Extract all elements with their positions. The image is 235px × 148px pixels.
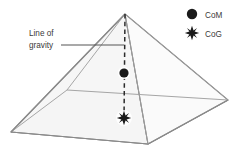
cog-marker <box>116 110 132 126</box>
pyramid-diagram: Line of gravity CoM CoG <box>0 0 235 148</box>
line-of-gravity-label-line2: gravity <box>29 41 54 50</box>
figure-root: Line of gravity CoM CoG <box>0 0 235 148</box>
legend-cog-label: CoG <box>205 30 222 39</box>
legend-item-cog: CoG <box>185 26 222 40</box>
legend-com-label: CoM <box>205 11 222 20</box>
line-of-gravity-label-line1: Line of <box>29 29 54 38</box>
legend: CoM CoG <box>185 9 223 40</box>
com-dot-icon <box>119 68 128 77</box>
legend-com-dot-icon <box>187 9 197 19</box>
com-marker <box>118 67 130 79</box>
legend-item-com: CoM <box>187 9 223 20</box>
legend-cog-star-icon <box>185 26 199 40</box>
cog-star-icon <box>117 111 131 125</box>
